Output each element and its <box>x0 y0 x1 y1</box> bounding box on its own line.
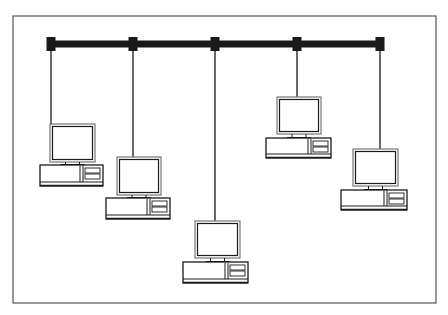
monitor-icon <box>353 149 398 190</box>
monitor-icon <box>117 157 161 198</box>
desktop-case-icon <box>106 198 170 219</box>
monitor-icon <box>195 221 240 262</box>
monitor-icon <box>50 124 95 165</box>
desktop-case-icon <box>266 138 331 158</box>
workstation-node <box>106 37 170 219</box>
workstation-node <box>40 37 103 186</box>
monitor-icon <box>277 97 321 138</box>
workstation-node <box>266 37 331 158</box>
desktop-case-icon <box>341 190 407 210</box>
workstation-node <box>341 37 407 210</box>
desktop-case-icon <box>183 262 248 283</box>
bus-network-diagram <box>0 0 448 315</box>
desktop-case-icon <box>40 165 103 186</box>
workstation-node <box>183 37 248 283</box>
